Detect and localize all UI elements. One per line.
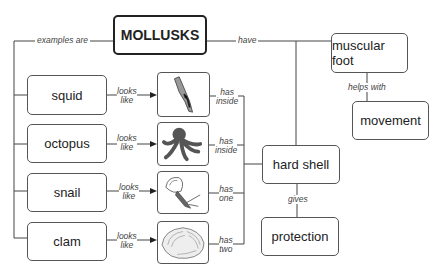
examples-are-label: examples are [35,36,90,45]
protection-label: protection [271,229,328,244]
gives-label: gives [287,195,309,204]
movement-node: movement [352,101,429,140]
snail-looks-like-label: looks like [119,183,139,201]
clam-has-two-label: has two [219,236,233,254]
clam-node: clam [27,222,107,261]
muscular-foot-label: muscular foot [332,38,407,68]
squid-image [157,72,210,117]
squid-has-inside-label: has inside [216,88,238,106]
octopus-has-inside-label: has inside [215,137,237,155]
octopus-looks-like-label: looks like [117,134,137,152]
squid-looks-like-label: looks like [117,87,137,105]
squid-node: squid [27,75,107,115]
mollusks-label: MOLLUSKS [121,27,200,43]
muscular-foot-node: muscular foot [331,33,408,73]
octopus-node: octopus [27,124,107,163]
have-label: have [236,36,258,45]
hard-shell-label: hard shell [273,157,329,172]
snail-node: snail [27,173,107,212]
snail-has-one-label: has one [219,185,233,203]
movement-label: movement [360,113,421,128]
helps-with-label: helps with [347,83,387,92]
protection-node: protection [261,217,339,256]
snail-label: snail [54,185,81,200]
octopus-illustration-icon [158,123,208,165]
squid-illustration-icon [158,73,209,116]
clam-illustration-icon [158,222,208,263]
snail-illustration-icon [158,172,208,213]
clam-label: clam [53,234,80,249]
squid-label: squid [51,88,82,103]
mollusks-node: MOLLUSKS [113,15,207,55]
octopus-label: octopus [44,136,90,151]
snail-image [157,171,209,214]
clam-image [157,221,209,264]
clam-looks-like-label: looks like [117,232,137,250]
hard-shell-node: hard shell [262,145,340,184]
octopus-image [157,122,209,166]
